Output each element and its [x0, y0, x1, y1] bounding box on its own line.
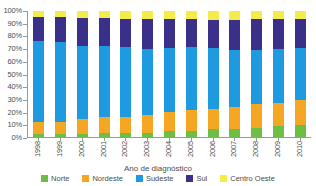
bar-segment-sul[interactable]	[55, 17, 66, 42]
bar-segment-centro-oeste[interactable]	[208, 11, 219, 20]
y-axis-tick-mark	[23, 113, 27, 114]
bar-segment-nordeste[interactable]	[229, 107, 240, 129]
bar-segment-nordeste[interactable]	[164, 112, 175, 131]
bar-segment-sudeste[interactable]	[55, 42, 66, 122]
bar-column[interactable]	[142, 11, 153, 137]
y-axis-tick-label: 50%	[0, 70, 22, 79]
bar-segment-norte[interactable]	[295, 125, 306, 137]
legend-item-sul[interactable]: Sul	[186, 174, 207, 183]
bar-segment-sul[interactable]	[295, 19, 306, 47]
bar-segment-sul[interactable]	[99, 18, 110, 46]
bar-column[interactable]	[120, 11, 131, 137]
bar-column[interactable]	[229, 11, 240, 137]
y-axis-tick-mark	[23, 11, 27, 12]
bar-segment-nordeste[interactable]	[251, 104, 262, 128]
y-axis-tick-mark	[23, 36, 27, 37]
bar-segment-sul[interactable]	[208, 20, 219, 48]
bar-segment-sul[interactable]	[77, 18, 88, 46]
legend-swatch-icon	[41, 175, 48, 182]
y-axis-tick-mark	[23, 87, 27, 88]
bar-segment-sul[interactable]	[273, 19, 284, 49]
y-axis-tick-label: 90%	[0, 19, 22, 28]
legend-item-nordeste[interactable]: Nordeste	[82, 174, 122, 183]
bar-segment-nordeste[interactable]	[273, 103, 284, 126]
bar-segment-sul[interactable]	[164, 19, 175, 48]
bar-segment-sul[interactable]	[33, 17, 44, 41]
bar-segment-sul[interactable]	[142, 19, 153, 49]
legend-label: Sudeste	[146, 174, 174, 183]
bar-segment-sudeste[interactable]	[251, 50, 262, 104]
bar-segment-sudeste[interactable]	[164, 48, 175, 112]
y-axis-tick-label: 40%	[0, 82, 22, 91]
bar-column[interactable]	[295, 11, 306, 137]
bar-segment-sudeste[interactable]	[77, 46, 88, 120]
legend-swatch-icon	[82, 175, 89, 182]
x-axis-tick-labels: 1998199920002001200220032004200520062007…	[28, 141, 311, 165]
bar-column[interactable]	[164, 11, 175, 137]
bar-column[interactable]	[55, 11, 66, 137]
bar-segment-sudeste[interactable]	[295, 48, 306, 101]
y-axis-tick-label: 100%	[0, 6, 22, 15]
bar-segment-sul[interactable]	[186, 19, 197, 47]
legend-item-centro-oeste[interactable]: Centro Oeste	[220, 174, 275, 183]
bar-segment-sul[interactable]	[251, 19, 262, 51]
bar-segment-nordeste[interactable]	[120, 117, 131, 133]
bar-column[interactable]	[273, 11, 284, 137]
bar-segment-nordeste[interactable]	[33, 122, 44, 135]
legend-swatch-icon	[186, 175, 193, 182]
bar-column[interactable]	[77, 11, 88, 137]
bar-column[interactable]	[33, 11, 44, 137]
bar-segment-centro-oeste[interactable]	[186, 11, 197, 19]
bar-segment-centro-oeste[interactable]	[142, 11, 153, 19]
bar-segment-centro-oeste[interactable]	[229, 11, 240, 20]
bar-segment-nordeste[interactable]	[208, 109, 219, 130]
x-axis-tick-label: 1999	[55, 141, 66, 165]
x-axis-tick-label: 2007	[229, 141, 240, 165]
bar-column[interactable]	[99, 11, 110, 137]
bar-segment-sudeste[interactable]	[229, 50, 240, 107]
bar-segment-nordeste[interactable]	[77, 119, 88, 133]
y-axis-tick-mark	[23, 24, 27, 25]
bar-segment-nordeste[interactable]	[55, 122, 66, 135]
bar-segment-centro-oeste[interactable]	[164, 11, 175, 19]
bar-column[interactable]	[208, 11, 219, 137]
y-axis-tick-mark	[23, 75, 27, 76]
bar-segment-centro-oeste[interactable]	[295, 11, 306, 19]
bar-segment-nordeste[interactable]	[99, 117, 110, 133]
bar-segment-norte[interactable]	[229, 129, 240, 137]
bar-segment-sudeste[interactable]	[186, 47, 197, 110]
bar-segment-centro-oeste[interactable]	[120, 11, 131, 19]
bar-segment-nordeste[interactable]	[295, 100, 306, 125]
bar-segment-sudeste[interactable]	[142, 49, 153, 115]
bar-series-group	[28, 11, 311, 137]
bar-segment-sudeste[interactable]	[208, 48, 219, 109]
bar-segment-sul[interactable]	[120, 19, 131, 47]
bar-segment-centro-oeste[interactable]	[77, 11, 88, 18]
y-axis-tick-label: 60%	[0, 57, 22, 66]
x-axis-tick-label: 2000	[77, 141, 88, 165]
x-axis-title: Ano de diagnóstico	[0, 164, 316, 173]
bar-segment-sudeste[interactable]	[120, 47, 131, 117]
bar-segment-norte[interactable]	[251, 128, 262, 137]
x-axis-tick-label: 2003	[142, 141, 153, 165]
bar-column[interactable]	[186, 11, 197, 137]
bar-segment-sudeste[interactable]	[33, 41, 44, 122]
y-axis-tick-label: 0%	[0, 133, 22, 142]
bar-column[interactable]	[251, 11, 262, 137]
bar-segment-nordeste[interactable]	[142, 115, 153, 133]
y-axis-tick-label: 70%	[0, 44, 22, 53]
legend-item-norte[interactable]: Norte	[41, 174, 69, 183]
bar-segment-nordeste[interactable]	[186, 110, 197, 131]
bar-segment-sudeste[interactable]	[273, 49, 284, 103]
bar-segment-sul[interactable]	[229, 20, 240, 50]
legend-item-sudeste[interactable]: Sudeste	[136, 174, 174, 183]
bar-segment-centro-oeste[interactable]	[99, 11, 110, 18]
y-axis-tick-label: 80%	[0, 31, 22, 40]
x-axis-tick-label: 2005	[186, 141, 197, 165]
bar-segment-sudeste[interactable]	[99, 46, 110, 117]
bar-segment-centro-oeste[interactable]	[251, 11, 262, 19]
bar-segment-norte[interactable]	[208, 129, 219, 137]
bar-segment-norte[interactable]	[273, 126, 284, 137]
bar-segment-centro-oeste[interactable]	[273, 11, 284, 19]
y-axis-tick-label: 20%	[0, 108, 22, 117]
